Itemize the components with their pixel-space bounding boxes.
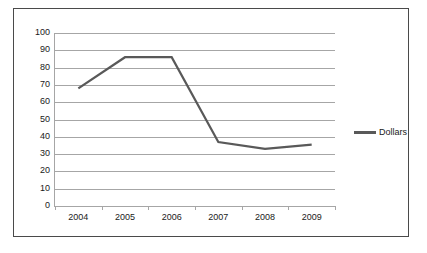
y-axis-tick-label: 90 <box>40 45 50 54</box>
x-axis-tick-label: 2009 <box>302 212 322 223</box>
x-axis-tick-mark <box>242 206 243 210</box>
legend-label-dollars: Dollars <box>379 127 407 137</box>
y-axis-tick-label: 60 <box>40 97 50 106</box>
y-axis-tick-label: 70 <box>40 80 50 89</box>
x-axis-tick-label: 2006 <box>162 212 182 223</box>
y-axis-tick-label: 80 <box>40 63 50 72</box>
series-polyline <box>78 57 311 149</box>
x-axis-tick-label: 2007 <box>208 212 228 223</box>
legend-color-swatch-dollars <box>354 131 376 134</box>
y-axis-tick-label: 40 <box>40 132 50 141</box>
x-axis-tick-mark <box>148 206 149 210</box>
x-axis-tick-label: 2005 <box>115 212 135 223</box>
chart-frame: 1009080706050403020100 20042005200620072… <box>13 8 409 237</box>
plot-area <box>55 33 335 206</box>
x-axis-tick-label: 2004 <box>68 212 88 223</box>
y-axis-tick-label: 10 <box>40 184 50 193</box>
chart-legend: Dollars <box>354 127 407 137</box>
y-axis-tick-label: 0 <box>45 201 50 210</box>
y-axis-tick-label: 30 <box>40 149 50 158</box>
y-axis-tick-labels: 1009080706050403020100 <box>14 9 50 238</box>
x-axis-tick-mark <box>102 206 103 210</box>
x-axis-tick-mark <box>55 206 56 210</box>
y-axis-tick-label: 50 <box>40 115 50 124</box>
x-axis-tick-label: 2008 <box>255 212 275 223</box>
x-axis-tick-mark <box>335 206 336 210</box>
x-axis-tick-mark <box>195 206 196 210</box>
y-axis-tick-label: 100 <box>35 28 50 37</box>
y-axis-tick-label: 20 <box>40 166 50 175</box>
line-series-dollars <box>55 33 335 206</box>
x-axis-tick-mark <box>288 206 289 210</box>
chart-screenshot: 1009080706050403020100 20042005200620072… <box>0 0 427 253</box>
